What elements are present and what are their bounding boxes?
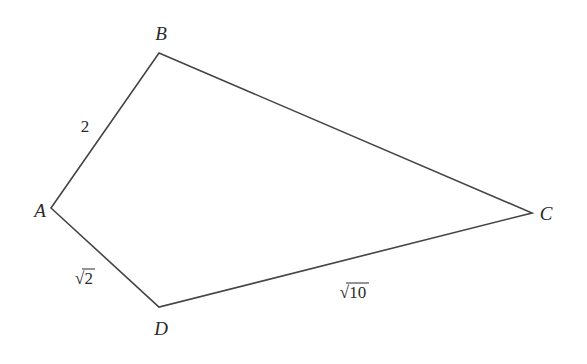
quadrilateral-abcd	[51, 53, 532, 307]
edge-label-cd: √10	[340, 283, 366, 302]
vertex-label-d: D	[153, 318, 168, 339]
vertex-label-b: B	[155, 23, 167, 44]
vertex-label-c: C	[540, 203, 553, 224]
edge-label-ab: 2	[81, 117, 90, 136]
vertex-label-a: A	[32, 200, 46, 221]
quadrilateral-diagram: A B C D 2 √2 √10	[0, 0, 587, 364]
edge-label-da: √2	[75, 269, 93, 288]
